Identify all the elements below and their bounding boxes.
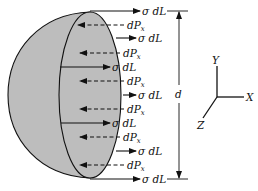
stress-force-label: σ dL [112, 61, 136, 73]
stress-force-label: σ dL [138, 145, 162, 157]
stress-force-row: σ dL [123, 89, 162, 101]
pressure-force-label: dPx [127, 75, 145, 90]
stress-force-row: σ dL [116, 32, 162, 44]
stress-force-label: σ dL [138, 32, 162, 44]
pressure-force-label: dPx [123, 131, 141, 146]
pressure-force-label: dPx [123, 47, 141, 62]
z-axis-label: Z [196, 119, 205, 131]
stress-force-label: σ dL [142, 5, 166, 17]
stress-force-row: σ dL [90, 5, 166, 17]
stress-force-row: σ dL [116, 145, 162, 157]
dimension-d: d [167, 11, 188, 179]
pressure-force-label: dPx [127, 103, 145, 118]
hemisphere-diagram: σ dLdPxσ dLdPxσ dLdPxσ dLdPxσ dLdPxσ dLd… [0, 0, 258, 191]
hemisphere-shell [8, 12, 121, 178]
x-axis-label: X [245, 91, 254, 103]
dimension-label: d [175, 88, 182, 100]
stress-force-label: σ dL [112, 117, 136, 129]
y-axis-label: Y [212, 54, 220, 66]
axis-triad: Y X Z [196, 54, 254, 131]
pressure-force-label: dPx [127, 159, 145, 174]
z-axis-line [203, 97, 217, 118]
stress-force-label: σ dL [138, 89, 162, 101]
cut-face-ellipse [59, 12, 121, 178]
stress-force-row: σ dL [90, 173, 166, 185]
stress-force-label: σ dL [142, 173, 166, 185]
